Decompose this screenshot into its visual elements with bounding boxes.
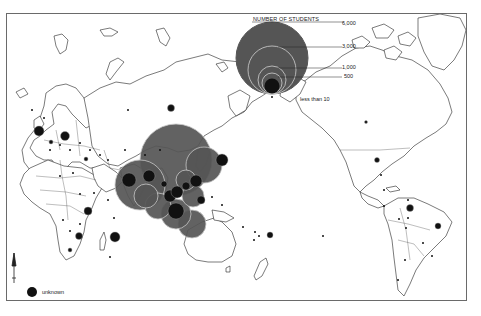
legend-label-1000: 1,000 bbox=[342, 64, 356, 70]
legend-label-500: 500 bbox=[344, 73, 353, 79]
map-frame bbox=[6, 13, 467, 301]
legend-label-6000: 6,000 bbox=[342, 20, 356, 26]
legend-label-3000: 3,000 bbox=[342, 43, 356, 49]
legend-unknown-label: unknown bbox=[42, 289, 64, 295]
legend-title: NUMBER OF STUDENTS bbox=[253, 16, 319, 22]
legend-label-less-than-10: less than 10 bbox=[300, 96, 330, 102]
